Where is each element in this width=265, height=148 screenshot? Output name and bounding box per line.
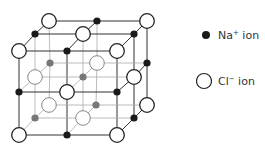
na-ion xyxy=(31,114,38,121)
cl-ion xyxy=(28,70,43,85)
cl-ion xyxy=(12,128,27,143)
cl-ion xyxy=(127,70,142,85)
cl-ion xyxy=(42,98,57,113)
na-ion xyxy=(130,114,137,121)
cl-ion xyxy=(110,128,125,143)
na-ion xyxy=(93,17,100,24)
cl-ion xyxy=(12,44,27,59)
na-ion xyxy=(113,88,120,95)
cl-ion xyxy=(140,14,155,29)
cl-ion xyxy=(60,85,75,100)
na-ion xyxy=(130,30,137,37)
na-ion xyxy=(15,88,22,95)
legend-na-label: Na+ ion xyxy=(218,29,259,42)
na-ion xyxy=(92,101,99,108)
cl-ion xyxy=(42,14,57,29)
na-ion xyxy=(31,30,38,37)
na-ion xyxy=(63,131,70,138)
na-ion xyxy=(63,47,70,54)
na-ion xyxy=(79,73,86,80)
na-ion xyxy=(143,59,150,66)
cl-ion-icon xyxy=(196,72,212,90)
cl-ion xyxy=(140,98,155,113)
cl-ion xyxy=(76,111,91,126)
na-ion-icon xyxy=(196,28,212,42)
na-ion xyxy=(46,59,53,66)
legend-cl: Cl− ion xyxy=(196,72,255,90)
cl-ion xyxy=(76,27,91,42)
lattice-ions xyxy=(12,14,155,143)
legend-cl-label: Cl− ion xyxy=(218,75,255,88)
legend-na: Na+ ion xyxy=(196,28,259,42)
cl-ion xyxy=(90,56,105,71)
nacl-lattice-diagram xyxy=(0,0,175,148)
cl-ion xyxy=(110,44,125,59)
